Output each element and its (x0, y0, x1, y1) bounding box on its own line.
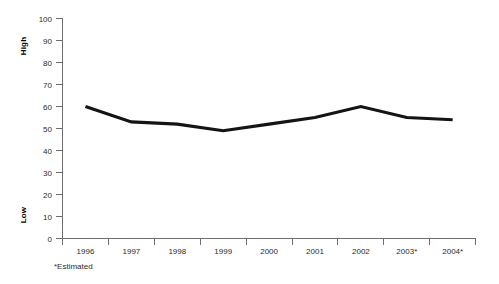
x-tick-label: 1996 (77, 247, 95, 256)
y-tick-label: 30 (43, 169, 52, 178)
y-tick-label: 80 (43, 59, 52, 68)
x-tick-label: 2003* (396, 247, 417, 256)
y-tick-label: 10 (43, 213, 52, 222)
y-tick-label: 50 (43, 125, 52, 134)
series-line-value (85, 107, 452, 131)
y-tick-label: 60 (43, 103, 52, 112)
x-tick-label: 2001 (306, 247, 324, 256)
chart-canvas: 100 90 80 70 60 50 40 30 20 10 0 High Lo… (0, 0, 499, 284)
x-tick-labels: 1996 1997 1998 1999 2000 2001 2002 2003*… (77, 247, 464, 256)
y-tick-label: 90 (43, 37, 52, 46)
y-tick-labels: 100 90 80 70 60 50 40 30 20 10 0 (39, 15, 53, 244)
y-axis-title-high: High (19, 37, 28, 56)
y-tick-label: 40 (43, 147, 52, 156)
y-tick-label: 0 (48, 235, 53, 244)
y-tick-marks (56, 19, 63, 239)
x-tick-label: 1998 (168, 247, 186, 256)
x-tick-label: 2002 (352, 247, 370, 256)
y-axis-title-low: Low (19, 206, 28, 223)
line-chart: 100 90 80 70 60 50 40 30 20 10 0 High Lo… (0, 0, 499, 284)
x-tick-label: 2004* (442, 247, 463, 256)
x-tick-label: 2000 (260, 247, 278, 256)
y-tick-label: 20 (43, 191, 52, 200)
x-tick-label: 1999 (214, 247, 232, 256)
y-tick-label: 100 (39, 15, 53, 24)
footnote: *Estimated (54, 262, 93, 271)
y-tick-label: 70 (43, 81, 52, 90)
x-tick-marks (63, 239, 476, 246)
x-tick-label: 1997 (123, 247, 141, 256)
